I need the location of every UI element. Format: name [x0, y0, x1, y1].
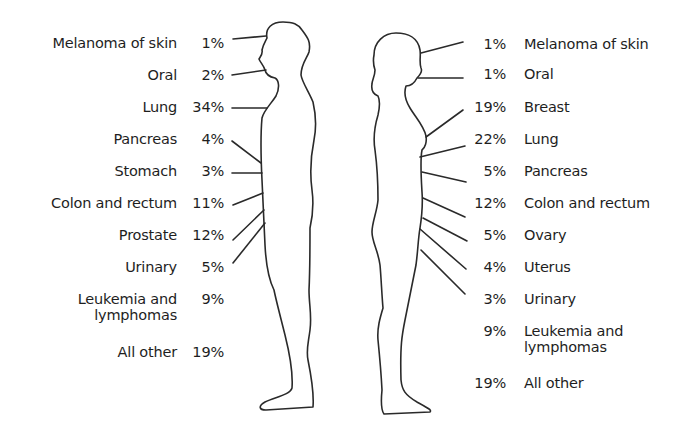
male-pct-prostate: 12%	[192, 227, 224, 243]
leader-female-urinary	[421, 250, 465, 294]
male-pct-leukemia: 9%	[201, 291, 224, 307]
female-label-lung: Lung	[524, 131, 559, 147]
male-pct-stomach: 3%	[201, 163, 224, 179]
female-pct-uterus: 4%	[483, 259, 506, 275]
leader-female-colon	[423, 198, 465, 217]
leader-male-melanoma	[233, 36, 266, 39]
leader-female-breast	[426, 110, 463, 137]
female-pct-lung: 22%	[474, 131, 506, 147]
male-silhouette	[259, 22, 315, 410]
male-label-leukemia-line2: lymphomas	[94, 307, 177, 323]
female-pct-ovary: 5%	[483, 227, 506, 243]
female-label-colon: Colon and rectum	[524, 195, 650, 211]
body-silhouettes	[0, 0, 693, 425]
female-pct-oral: 1%	[483, 66, 506, 82]
female-pct-all-other: 19%	[474, 375, 506, 391]
male-pct-colon: 11%	[192, 195, 224, 211]
female-label-all-other: All other	[524, 375, 583, 391]
female-label-ovary: Ovary	[524, 227, 566, 243]
male-pct-urinary: 5%	[201, 259, 224, 275]
male-label-lung: Lung	[142, 99, 177, 115]
male-label-all-other: All other	[118, 344, 177, 360]
leader-female-uterus	[420, 229, 466, 269]
leader-male-prostate	[233, 210, 264, 240]
female-pct-breast: 19%	[474, 99, 506, 115]
leader-female-melanoma	[421, 42, 463, 53]
female-pct-colon: 12%	[474, 195, 506, 211]
leader-male-urinary	[233, 223, 265, 263]
female-pct-melanoma: 1%	[483, 36, 506, 52]
leader-male-oral	[232, 70, 266, 75]
female-label-pancreas: Pancreas	[524, 163, 588, 179]
male-pct-melanoma: 1%	[201, 35, 224, 51]
male-pct-all-other: 19%	[192, 344, 224, 360]
female-pct-leukemia: 9%	[483, 323, 506, 339]
female-silhouette	[372, 33, 431, 414]
male-label-pancreas: Pancreas	[113, 131, 177, 147]
female-pct-pancreas: 5%	[483, 163, 506, 179]
female-label-leukemia-line1: Leukemia and	[524, 323, 623, 339]
female-label-breast: Breast	[524, 99, 569, 115]
leader-male-colon	[233, 193, 263, 205]
male-label-urinary: Urinary	[125, 259, 177, 275]
female-label-uterus: Uterus	[524, 259, 571, 275]
leader-female-pancreas	[422, 172, 466, 182]
male-label-colon: Colon and rectum	[51, 195, 177, 211]
female-label-urinary: Urinary	[524, 291, 576, 307]
female-pct-urinary: 3%	[483, 291, 506, 307]
male-pct-oral: 2%	[201, 67, 224, 83]
female-label-oral: Oral	[524, 66, 554, 82]
female-label-leukemia-line2: lymphomas	[524, 339, 607, 355]
male-pct-lung: 34%	[192, 99, 224, 115]
leader-male-pancreas	[232, 141, 261, 163]
male-label-melanoma: Melanoma of skin	[52, 35, 177, 51]
male-label-prostate: Prostate	[119, 227, 177, 243]
female-label-melanoma: Melanoma of skin	[524, 36, 649, 52]
male-label-stomach: Stomach	[114, 163, 177, 179]
male-label-leukemia-line1: Leukemia and	[78, 291, 177, 307]
leader-female-lung	[420, 146, 465, 157]
male-label-oral: Oral	[148, 67, 178, 83]
male-pct-pancreas: 4%	[201, 131, 224, 147]
